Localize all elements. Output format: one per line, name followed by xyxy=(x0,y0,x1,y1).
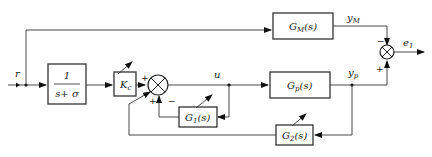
filter-block: 1 s+ σ xyxy=(48,64,86,104)
svg-text:s+ σ: s+ σ xyxy=(55,88,80,99)
reference-model-block: GM(s) xyxy=(273,13,333,39)
adjustable-g2-arrow-icon xyxy=(292,114,306,126)
signal-y-m: yM xyxy=(346,12,361,25)
feedback1-block: G1(s) xyxy=(179,107,217,127)
gain-block: Kc xyxy=(114,72,136,96)
g1-input-line xyxy=(218,85,229,117)
sign-sum1-g2: + xyxy=(149,96,157,106)
block-diagram: r GM(s) yM − e1 1 s+ σ Kc + xyxy=(0,0,432,157)
svg-text:1: 1 xyxy=(64,70,70,81)
sign-sum1-gain: + xyxy=(141,73,149,83)
signal-e-1: e1 xyxy=(403,37,413,50)
sign-sum1-g1: − xyxy=(168,96,176,106)
signal-y-p: yp xyxy=(347,67,359,80)
summing-junction-control xyxy=(148,75,168,95)
signal-u: u xyxy=(214,69,220,80)
adjustable-g1-arrow-icon xyxy=(196,95,212,108)
signal-r: r xyxy=(15,68,21,79)
sign-sum2-model: − xyxy=(377,36,385,46)
sign-sum2-plant: + xyxy=(376,64,384,74)
summing-junction-error xyxy=(380,45,394,59)
feedback2-block: G2(s) xyxy=(276,125,313,145)
plant-block: Gp(s) xyxy=(270,72,330,98)
